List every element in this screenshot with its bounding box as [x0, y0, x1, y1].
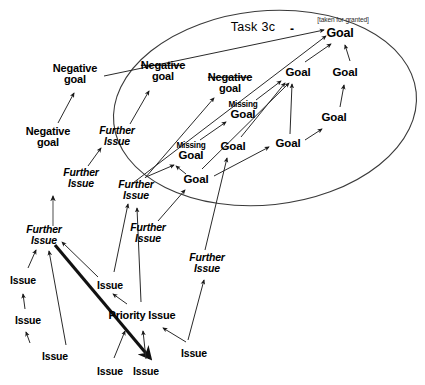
edge-goal-to-goal — [305, 129, 322, 140]
task-title-label: Task 3c — [231, 21, 275, 34]
node-goal[interactable]: Goal — [333, 67, 358, 79]
edge-goal-to-goal — [340, 85, 344, 107]
edge-issue-to-further-issue — [188, 280, 204, 340]
edge-missing-goal-to-missing-goal — [200, 122, 226, 140]
edge-issue-to-issue — [23, 294, 25, 309]
taken-for-granted-annotation: [taken for granted] — [317, 17, 369, 24]
node-negative-goal-struck[interactable]: Negativegoal — [208, 72, 252, 94]
node-goal[interactable]: Goal — [184, 174, 209, 186]
node-goal[interactable]: Goal — [286, 67, 311, 79]
edge-negative-goal-to-negative-goal — [58, 93, 74, 123]
edge-priority-thick-arrow — [55, 245, 150, 358]
node-goal[interactable]: Goal — [322, 112, 347, 124]
edge-further-issue-to-negative-goal — [130, 91, 149, 124]
edge-issue-to-priority-issue — [114, 331, 125, 358]
node-missing-goal[interactable]: MissingGoal — [176, 142, 205, 162]
edge-issue-to-further-issue-long — [114, 204, 128, 272]
node-issue[interactable]: Issue — [97, 366, 123, 377]
node-issue[interactable]: Issue — [97, 280, 123, 291]
node-top-goal[interactable]: Goal — [327, 27, 354, 40]
node-negative-goal-struck[interactable]: Negativegoal — [141, 60, 185, 82]
diagram-canvas: Task 3c - [taken for granted] Negativego… — [0, 0, 425, 385]
edge-missing-goal-to-goal — [256, 81, 281, 100]
node-goal[interactable]: Goal — [276, 138, 301, 150]
node-further-issue[interactable]: FurtherIssue — [99, 125, 134, 146]
node-issue[interactable]: Issue — [15, 315, 41, 326]
edge-issue-to-priority-issue — [143, 331, 146, 359]
node-negative-goal[interactable]: Negativegoal — [53, 63, 97, 85]
edge-issue-to-priority-issue — [163, 328, 186, 342]
edge-issue-to-issue — [26, 332, 30, 343]
edge-goal-to-top-goal — [345, 45, 350, 61]
negative-sign-label: - — [290, 23, 294, 35]
node-further-issue[interactable]: FurtherIssue — [63, 167, 98, 188]
edge-goal-to-missing-goal — [146, 165, 174, 177]
node-issue[interactable]: Issue — [42, 351, 68, 362]
node-missing-goal[interactable]: MissingGoal — [228, 101, 257, 121]
node-further-issue[interactable]: FurtherIssue — [130, 222, 165, 243]
node-goal[interactable]: Goal — [221, 141, 246, 153]
edge-goal-to-goal — [290, 84, 292, 134]
node-further-issue[interactable]: FurtherIssue — [189, 252, 224, 273]
edge-goal-to-goal — [202, 83, 289, 169]
node-negative-goal[interactable]: Negativegoal — [26, 126, 70, 148]
diagram-edges-layer — [0, 0, 425, 385]
edge-further-issue-to-goal — [158, 190, 185, 221]
node-issue[interactable]: Issue — [181, 348, 207, 359]
edge-further-issue-to-further-issue — [88, 148, 101, 166]
node-issue[interactable]: Issue — [10, 275, 36, 286]
edge-issue-to-further-issue — [28, 250, 36, 268]
edge-issue-to-further-issue — [49, 251, 66, 345]
node-priority-issue[interactable]: Priority Issue — [109, 310, 176, 321]
node-issue[interactable]: Issue — [133, 366, 159, 377]
node-further-issue[interactable]: FurtherIssue — [26, 224, 61, 245]
node-further-issue[interactable]: FurtherIssue — [118, 179, 153, 200]
edge-priority-issue-to-issue — [113, 294, 127, 304]
edge-goal-to-top-goal — [305, 44, 331, 62]
